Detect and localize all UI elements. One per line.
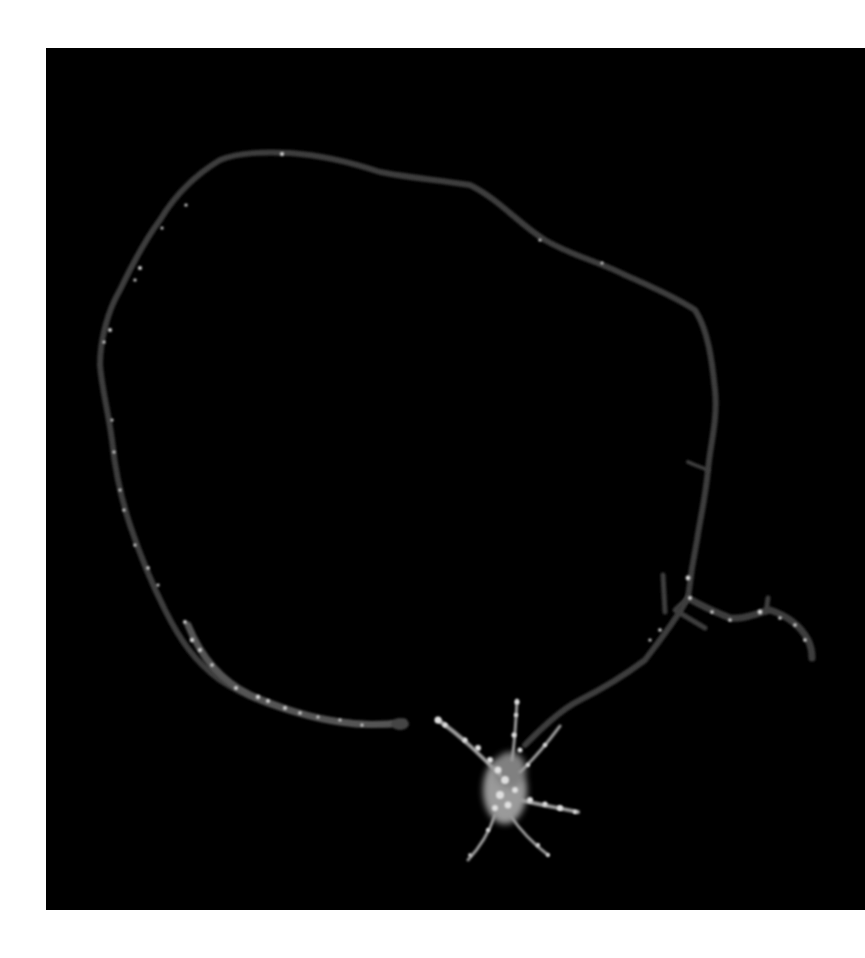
- cell-body-soma: [435, 700, 579, 861]
- microscopy-image-panel: [46, 48, 865, 910]
- synaptic-puncta: [102, 152, 806, 727]
- main-neurite-loop: [100, 153, 716, 745]
- right-branch-neurite: [663, 462, 812, 658]
- neuron-drawing: [46, 48, 865, 910]
